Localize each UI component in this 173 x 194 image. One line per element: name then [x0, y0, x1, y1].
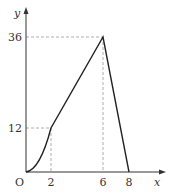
x-tick-8: 8 [126, 176, 133, 189]
y-axis-label: y [13, 7, 21, 20]
x-axis-label: x [154, 176, 161, 189]
y-tick-36: 36 [8, 31, 22, 44]
chart: O 2 6 8 x 12 36 y [0, 0, 173, 194]
x-tick-6: 6 [100, 176, 107, 189]
data-series-curve [26, 37, 129, 172]
y-tick-12: 12 [8, 122, 22, 135]
origin-label: O [15, 176, 24, 189]
axes [26, 10, 163, 172]
y-axis-arrow-icon [24, 7, 29, 14]
x-tick-2: 2 [48, 176, 55, 189]
x-axis-arrow-icon [159, 170, 166, 175]
